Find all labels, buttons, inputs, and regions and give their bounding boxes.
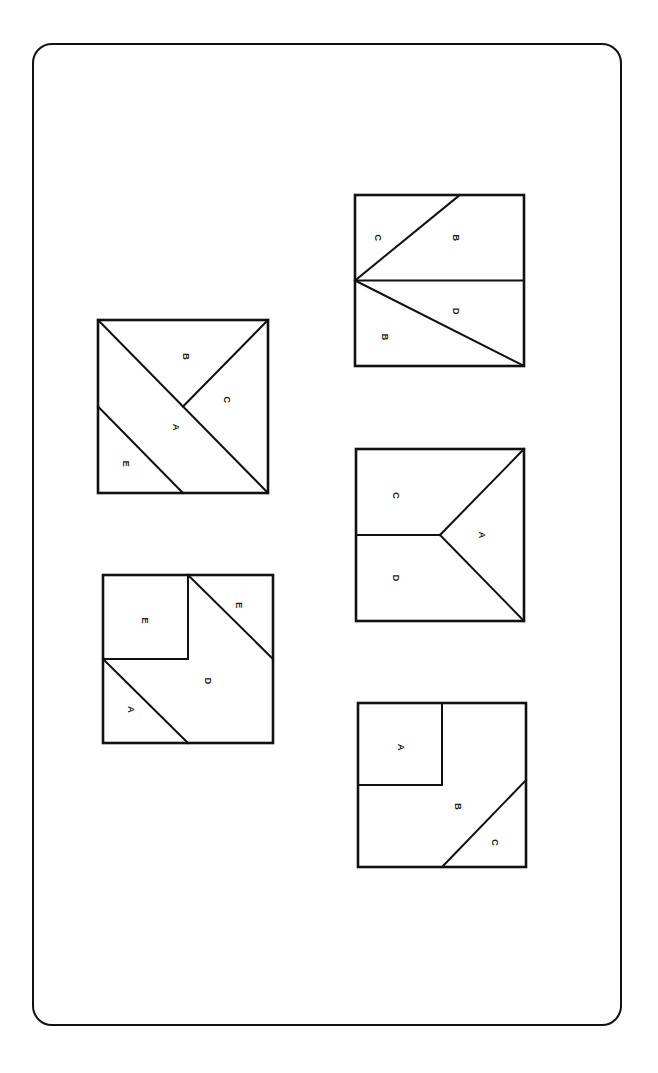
figure-lower-left: EEDA (100, 572, 276, 746)
region-label: D (451, 308, 462, 315)
region-label: E (121, 460, 132, 466)
region-label: A (396, 744, 407, 751)
region-label: B (453, 803, 464, 810)
region-label: B (451, 234, 462, 241)
partition-line (183, 320, 268, 407)
figure-top-right: CBDB (352, 192, 527, 369)
region-label: E (234, 602, 245, 608)
partition-line (188, 575, 273, 659)
region-label: A (126, 706, 137, 713)
partition-line (103, 659, 188, 743)
region-label: C (391, 492, 402, 499)
partition-line (440, 535, 524, 621)
page-root: CBDBBCAECADEEDAABC (0, 0, 658, 1073)
partition-line (98, 407, 183, 494)
figure-bottom-right: ABC (355, 700, 529, 870)
region-label: C (373, 234, 384, 241)
region-label: B (380, 333, 391, 340)
region-label: D (391, 575, 402, 582)
partition-line (355, 281, 524, 367)
region-label: E (140, 617, 151, 623)
partition-line (440, 449, 524, 535)
region-label: A (171, 424, 182, 431)
region-label: C (222, 396, 233, 403)
region-label: B (181, 353, 192, 360)
figure-middle-right: CAD (353, 446, 527, 624)
region-label: D (203, 677, 214, 684)
partition-line (355, 195, 460, 281)
figure-upper-left: BCAE (95, 317, 271, 496)
rounded-page-frame (32, 43, 622, 1026)
region-label: A (477, 532, 488, 539)
partition-line (442, 780, 526, 867)
region-label: C (490, 839, 501, 846)
